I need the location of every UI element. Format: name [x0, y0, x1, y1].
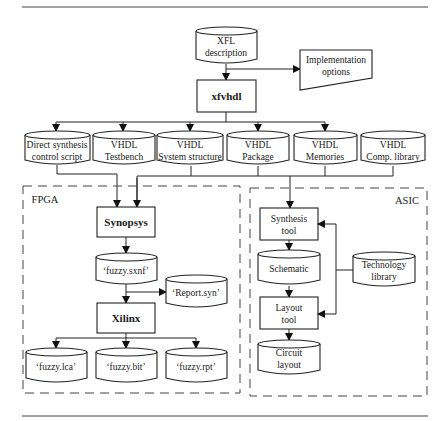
output-label: Package: [242, 152, 274, 162]
file-label: ‘fuzzy.bit’: [106, 362, 145, 372]
output-label: Direct synthesis: [27, 140, 88, 150]
tech-lib-line1: Technology: [362, 260, 407, 270]
file-label: ‘fuzzy.rpt’: [176, 362, 216, 372]
output-vhdl-testbench: VHDL Testbench: [93, 131, 155, 164]
asic-title: ASIC: [395, 195, 419, 206]
xfvhdl-label: xfvhdl: [212, 90, 242, 102]
output-label: VHDL: [312, 140, 339, 150]
output-direct-synthesis: Direct synthesis control script: [25, 131, 90, 164]
output-label: Comp. library: [366, 152, 420, 162]
report-syn-node: ‘Report.syn’: [166, 275, 227, 307]
options-line1: Implementation: [306, 55, 366, 65]
circuit-line2: layout: [277, 360, 301, 370]
tech-lib-line2: library: [371, 272, 397, 282]
circuit-line1: Circuit: [276, 348, 303, 358]
file-label: ‘fuzzy.lca’: [36, 362, 76, 372]
circuit-layout-node: Circuit layout: [258, 340, 320, 374]
synthesis-line2: tool: [282, 226, 297, 236]
layout-tool-node: Layout tool: [260, 297, 318, 329]
output-label: control script: [32, 152, 83, 162]
output-vhdl-system-structure: VHDL System structure: [157, 131, 223, 164]
xilinx-label: Xilinx: [112, 312, 141, 324]
technology-library-node: Technology library: [353, 252, 415, 286]
synthesis-line1: Synthesis: [271, 214, 308, 224]
xfl-line1: XFL: [217, 36, 235, 46]
schematic-node: Schematic: [258, 250, 320, 284]
synthesis-tool-node: Synthesis tool: [260, 208, 318, 240]
sxnf-label: ‘fuzzy.sxnf’: [103, 266, 149, 276]
output-label: VHDL: [245, 140, 272, 150]
synopsys-label: Synopsys: [104, 216, 148, 228]
schematic-label: Schematic: [269, 264, 309, 274]
output-label: System structure: [158, 152, 222, 162]
xfl-description-node: XFL description: [196, 27, 257, 63]
implementation-options-node: Implementation options: [300, 50, 372, 90]
xfvhdl-node: xfvhdl: [197, 80, 256, 112]
xfl-line2: description: [205, 48, 247, 58]
fuzzy-bit-node: ‘fuzzy.bit’: [96, 348, 157, 382]
options-line2: options: [322, 67, 350, 77]
fpga-title: FPGA: [32, 194, 59, 205]
report-label: ‘Report.syn’: [172, 288, 220, 298]
fuzzy-rpt-node: ‘fuzzy.rpt’: [166, 348, 227, 382]
output-label: VHDL: [380, 140, 407, 150]
output-vhdl-memories: VHDL Memories: [294, 131, 357, 164]
layout-tool-line1: Layout: [276, 303, 303, 313]
xilinx-node: Xilinx: [97, 303, 155, 333]
output-label: VHDL: [111, 140, 138, 150]
synopsys-node: Synopsys: [97, 207, 155, 237]
flow-diagram: XFL description Implementation options x…: [0, 0, 448, 421]
output-vhdl-package: VHDL Package: [227, 131, 289, 164]
fuzzy-lca-node: ‘fuzzy.lca’: [26, 348, 87, 382]
fuzzy-sxnf-node: ‘fuzzy.sxnf’: [96, 253, 157, 284]
output-label: Memories: [306, 152, 345, 162]
output-label: Testbench: [105, 152, 144, 162]
output-vhdl-comp-library: VHDL Comp. library: [361, 131, 425, 164]
output-label: VHDL: [177, 140, 204, 150]
layout-tool-line2: tool: [282, 315, 297, 325]
